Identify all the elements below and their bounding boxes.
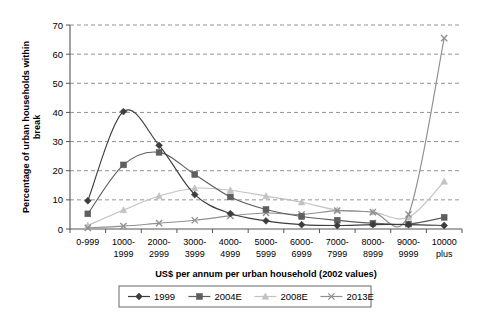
x-axis-tick-labels: 0-9991000-19992000-29993000-39994000-499… <box>76 237 456 259</box>
y-tick-label: 20 <box>52 165 63 176</box>
axis-ticks <box>66 25 462 233</box>
x-axis-title: US$ per annum per urban household (2002 … <box>155 269 377 279</box>
x-tick-label: 4000- <box>219 237 242 247</box>
data-point-square <box>121 162 127 168</box>
y-axis-tick-labels: 010203040506070 <box>52 20 63 235</box>
legend-label: 2008E <box>280 291 307 302</box>
x-tick-label: 7000- <box>326 237 349 247</box>
y-tick-label: 10 <box>52 194 63 205</box>
x-tick-label: 7999 <box>327 249 347 259</box>
x-tick-label: 9999 <box>399 249 419 259</box>
gridlines <box>70 25 462 200</box>
x-tick-label: 2000- <box>148 237 171 247</box>
y-axis-title-line: break <box>32 114 42 139</box>
x-tick-label: 8000- <box>361 237 384 247</box>
data-point-square <box>441 214 447 220</box>
y-tick-label: 30 <box>52 136 63 147</box>
data-point-square <box>263 207 269 213</box>
series-2004e <box>85 149 447 226</box>
line-chart: 010203040506070 0-9991000-19992000-29993… <box>0 0 480 317</box>
y-tick-label: 70 <box>52 20 63 31</box>
x-tick-label: plus <box>436 249 453 259</box>
data-point-diamond <box>441 222 448 229</box>
data-point-diamond <box>298 221 305 228</box>
x-tick-label: 4999 <box>220 249 240 259</box>
y-tick-label: 50 <box>52 78 63 89</box>
series-2013e <box>85 35 448 231</box>
y-tick-label: 0 <box>58 224 63 235</box>
x-tick-label: 3999 <box>185 249 205 259</box>
y-tick-label: 40 <box>52 107 63 118</box>
legend-label: 1999 <box>154 291 175 302</box>
x-tick-label: 1999 <box>113 249 133 259</box>
y-axis-title: Percentage of urban households withinbre… <box>21 41 42 213</box>
legend-label: 2013E <box>346 291 373 302</box>
data-point-diamond <box>84 197 91 204</box>
x-tick-label: 1000- <box>112 237 135 247</box>
data-point-square <box>192 172 198 178</box>
data-point-triangle <box>441 178 448 184</box>
y-axis-title-line: Percentage of urban households within <box>21 41 31 213</box>
data-point-square <box>156 149 162 155</box>
legend-label: 2004E <box>214 291 241 302</box>
series-line <box>88 38 444 228</box>
x-tick-label: 8999 <box>363 249 383 259</box>
data-point-diamond <box>263 217 270 224</box>
data-point-square <box>85 211 91 217</box>
x-tick-label: 9000- <box>397 237 420 247</box>
data-point-square <box>227 194 233 200</box>
x-tick-label: 10000 <box>432 237 457 247</box>
chart-container: 010203040506070 0-9991000-19992000-29993… <box>0 0 480 317</box>
data-point-square <box>197 294 203 300</box>
x-tick-label: 5000- <box>254 237 277 247</box>
x-tick-label: 3000- <box>183 237 206 247</box>
data-point-square <box>299 214 305 220</box>
data-series-group <box>84 35 447 231</box>
x-tick-label: 6000- <box>290 237 313 247</box>
x-tick-label: 2999 <box>149 249 169 259</box>
x-tick-label: 6999 <box>292 249 312 259</box>
x-tick-label: 0-999 <box>76 237 99 247</box>
y-tick-label: 60 <box>52 49 63 60</box>
chart-legend: 19992004E2008E2013E <box>119 286 374 307</box>
x-tick-label: 5999 <box>256 249 276 259</box>
